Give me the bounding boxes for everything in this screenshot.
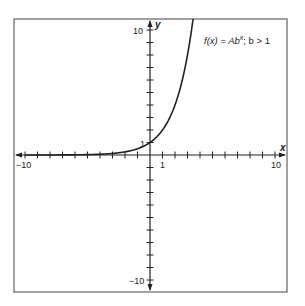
x-axis-label: x <box>279 142 286 153</box>
annotation-rest: ; b > 1 <box>243 35 270 46</box>
y-tick-label-neg10: −10 <box>129 276 144 286</box>
x-axis-left-arrow-icon <box>15 153 22 158</box>
x-tick-label-10: 10 <box>271 160 281 170</box>
x-tick-label-neg10: −10 <box>16 160 31 170</box>
annotation-main: f(x) = Ab <box>204 35 240 46</box>
y-axis-down-arrow-icon <box>148 284 153 291</box>
y-axis-up-arrow-icon <box>148 20 153 27</box>
y-axis-label: y <box>154 19 161 30</box>
x-tick-label-1: 1 <box>160 160 165 170</box>
exponential-chart: x y −10 1 10 10 1 −10 f(x) = Abx; b > 1 <box>0 0 305 306</box>
y-tick-label-10: 10 <box>133 26 143 36</box>
exponential-curve <box>25 19 193 155</box>
function-annotation: f(x) = Abx; b > 1 <box>204 34 270 46</box>
x-axis-right-arrow-icon <box>279 153 286 158</box>
